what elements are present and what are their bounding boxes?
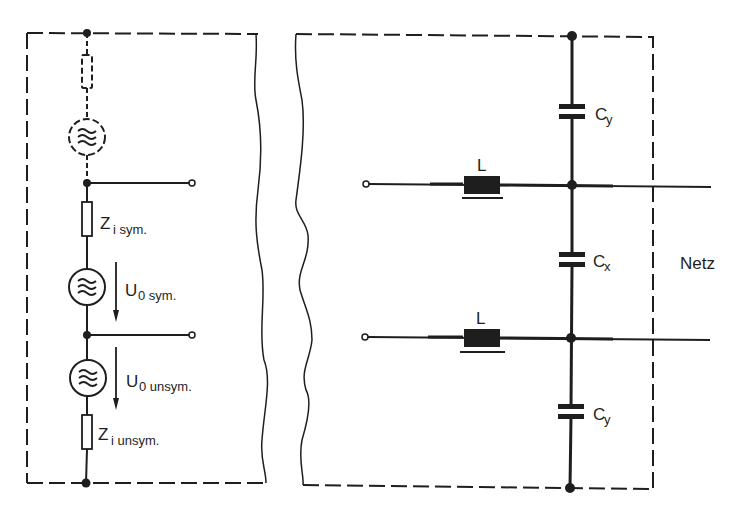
inductor-bottom-label: L <box>476 309 485 328</box>
zi-unsym-label-sub: i unsym. <box>111 433 159 448</box>
zi-unsym-resistor-icon <box>82 415 92 449</box>
line-top <box>363 181 711 187</box>
zi-unsym-label-main: Z <box>98 425 108 444</box>
zi-sym-label-main: Z <box>100 214 110 233</box>
capacitor-cy-bottom-icon <box>558 404 584 419</box>
inductor-bottom-icon <box>460 329 505 352</box>
u0-sym-ac-source-icon <box>69 269 105 305</box>
u0-unsym-label-sub: 0 unsym. <box>139 379 192 394</box>
terminal-line-top <box>363 181 369 187</box>
u0-unsym-ac-source-icon <box>70 360 106 396</box>
terminal-sym-bottom <box>189 332 195 338</box>
capacitor-cy-top-icon <box>559 104 585 119</box>
cy-top-label-sub: y <box>606 112 613 127</box>
netz-label: Netz <box>680 254 715 273</box>
terminal-line-bottom <box>362 334 368 340</box>
dashed-resistor-icon <box>82 55 92 88</box>
inductor-top-icon <box>462 176 503 198</box>
circuit-diagram: Z i sym. U 0 sym. U 0 unsym. Z i unsy <box>0 0 740 513</box>
cy-bottom-label-sub: y <box>604 412 611 427</box>
capacitor-cx-icon <box>559 252 585 267</box>
cx-label-sub: x <box>604 259 611 274</box>
right-break-edge <box>295 34 312 485</box>
left-frame-dashed <box>27 33 266 483</box>
zi-sym-resistor-icon <box>82 202 92 236</box>
u0-sym-label-sub: 0 sym. <box>138 288 176 303</box>
u0-unsym-label-main: U <box>126 372 138 391</box>
left-break-edge <box>255 34 268 483</box>
dashed-ac-source-icon <box>69 119 105 155</box>
zi-sym-label-sub: i sym. <box>113 222 147 237</box>
line-bottom <box>362 334 710 340</box>
inductor-top-label: L <box>477 156 486 175</box>
terminal-sym-top <box>189 180 195 186</box>
u0-sym-label-main: U <box>125 281 137 300</box>
u0-unsym-arrow-icon <box>113 347 119 410</box>
left-block: Z i sym. U 0 sym. U 0 unsym. Z i unsy <box>27 29 267 488</box>
u0-sym-arrow-icon <box>113 262 119 322</box>
right-block: L L C y C x C <box>295 31 715 493</box>
